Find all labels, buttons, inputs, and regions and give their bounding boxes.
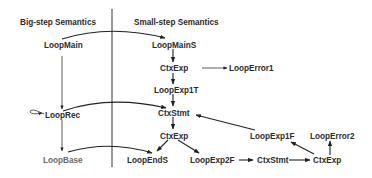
header-big-step: Big-step Semantics [20,18,96,27]
edge-ctxexp3-loopexp1f [291,142,314,154]
node-looprec: LoopRec [45,111,80,120]
node-loopexp1f: LoopExp1F [250,132,295,141]
node-ctxexp-3: CtxExp [313,156,341,165]
node-loopends: LoopEndS [127,156,168,165]
edge-looprec-self [30,110,44,114]
header-small-step: Small-step Semantics [134,18,219,27]
node-loopbase: LoopBase [43,156,83,165]
node-ctxstmt-1: CtxStmt [158,109,190,118]
node-loopexp2f: LoopExp2F [190,156,235,165]
edge-loopexp1f-ctxstmt [196,115,255,130]
node-loopexp1t: LoopExp1T [154,86,199,95]
edge-ctxexp-loopends [157,140,168,151]
edge-ctxexp-loopexp2f [178,140,199,153]
edge-loopmain-loopmains [62,31,165,39]
node-looperror2: LoopError2 [310,132,355,141]
node-loopmain: LoopMain [44,41,83,50]
node-ctxstmt-2: CtxStmt [257,156,289,165]
node-ctxexp-2: CtxExp [160,132,188,141]
edge-looprec-ctxstmt [63,102,166,111]
semantics-diagram: Big-step Semantics Small-step Semantics … [0,0,372,178]
node-loopmains: LoopMainS [152,41,197,50]
node-ctxexp-1: CtxExp [160,64,188,73]
node-looperror1: LoopError1 [229,64,274,73]
edge-loopbase-loopends [68,146,152,153]
